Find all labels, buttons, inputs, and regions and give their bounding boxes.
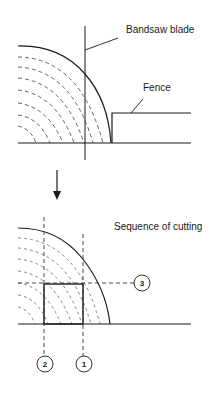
arrow-down-icon: [53, 170, 61, 200]
bottom-diagram: 3 2 1 Sequence of cutting: [18, 217, 202, 372]
log-outline: [18, 228, 110, 324]
cut-marker-3: 3: [134, 275, 150, 291]
fence-label: Fence: [143, 82, 171, 93]
cut-number-1: 1: [82, 360, 87, 369]
cut-square: [44, 284, 83, 324]
sequence-title: Sequence of cutting: [114, 221, 202, 232]
bandsaw-cutting-diagram: Bandsaw blade Fence: [0, 0, 220, 397]
growth-rings: [18, 238, 100, 324]
fence: [112, 113, 191, 143]
log-outline: [18, 46, 111, 143]
blade-leader-line: [85, 38, 118, 50]
top-diagram: Bandsaw blade Fence: [18, 24, 195, 160]
cut-marker-1: 1: [76, 356, 92, 372]
fence-leader-line: [131, 99, 143, 113]
cut-marker-2: 2: [37, 356, 53, 372]
blade-label: Bandsaw blade: [126, 24, 195, 35]
growth-rings: [18, 57, 103, 143]
cut-number-2: 2: [43, 360, 48, 369]
cut-number-3: 3: [140, 279, 145, 288]
